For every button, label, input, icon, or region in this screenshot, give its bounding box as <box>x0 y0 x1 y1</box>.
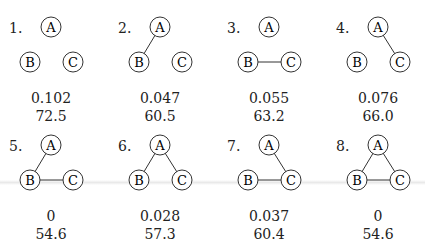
panel-value-2: 57.3 <box>109 226 211 240</box>
panel-value-1: 0 <box>0 208 102 224</box>
svg-text:B: B <box>25 173 35 188</box>
graph-panel-2: A B C 2. 0.047 60.5 <box>109 10 215 128</box>
node-c: C <box>390 52 410 72</box>
node-b: B <box>129 52 149 72</box>
node-a: A <box>150 17 170 37</box>
panel-value-2: 54.6 <box>327 226 425 240</box>
svg-text:C: C <box>395 173 405 188</box>
node-c: C <box>390 170 410 190</box>
svg-text:A: A <box>154 20 165 35</box>
graph-panel-7: A B C 7. 0.037 60.4 <box>218 128 324 240</box>
svg-text:C: C <box>395 55 405 70</box>
node-c: C <box>63 52 83 72</box>
node-a: A <box>41 135 61 155</box>
svg-text:C: C <box>68 55 78 70</box>
node-b: B <box>129 170 149 190</box>
panel-value-1: 0.076 <box>327 90 425 106</box>
svg-text:B: B <box>352 55 362 70</box>
panel-number: 6. <box>118 138 131 154</box>
graph-panel-4: A B C 4. 0.076 66.0 <box>327 10 425 128</box>
panel-number: 4. <box>336 20 349 36</box>
node-c: C <box>63 170 83 190</box>
panel-value-1: 0 <box>327 208 425 224</box>
graph-panel-6: A B C 6. 0.028 57.3 <box>109 128 215 240</box>
node-a: A <box>259 135 279 155</box>
panel-number: 5. <box>9 138 22 154</box>
svg-text:C: C <box>177 173 187 188</box>
node-b: B <box>20 170 40 190</box>
node-c: C <box>172 170 192 190</box>
panel-number: 7. <box>227 138 240 154</box>
node-b: B <box>347 52 367 72</box>
panel-value-1: 0.028 <box>109 208 211 224</box>
node-b: B <box>347 170 367 190</box>
node-a: A <box>41 17 61 37</box>
node-a: A <box>368 135 388 155</box>
svg-text:B: B <box>134 55 144 70</box>
svg-text:B: B <box>243 55 253 70</box>
svg-text:A: A <box>154 138 165 153</box>
graph-panel-1: A B C 1. 0.102 72.5 <box>0 10 106 128</box>
graph-panel-8: A B C 8. 0 54.6 <box>327 128 425 240</box>
svg-text:B: B <box>25 55 35 70</box>
panel-value-1: 0.047 <box>109 90 211 106</box>
node-a: A <box>150 135 170 155</box>
svg-text:C: C <box>286 55 296 70</box>
svg-text:C: C <box>286 173 296 188</box>
svg-text:A: A <box>372 138 383 153</box>
node-c: C <box>172 52 192 72</box>
graph-panel-5: A B C 5. 0 54.6 <box>0 128 106 240</box>
panel-number: 8. <box>336 138 349 154</box>
panel-value-2: 60.5 <box>109 108 211 124</box>
svg-text:B: B <box>134 173 144 188</box>
svg-text:B: B <box>243 173 253 188</box>
node-b: B <box>20 52 40 72</box>
svg-text:A: A <box>45 20 56 35</box>
panel-value-2: 54.6 <box>0 226 102 240</box>
panel-value-2: 60.4 <box>218 226 320 240</box>
node-a: A <box>368 17 388 37</box>
svg-text:C: C <box>68 173 78 188</box>
panel-value-2: 72.5 <box>0 108 102 124</box>
panel-number: 2. <box>118 20 131 36</box>
node-c: C <box>281 170 301 190</box>
svg-text:C: C <box>177 55 187 70</box>
panel-value-1: 0.102 <box>0 90 102 106</box>
svg-text:A: A <box>372 20 383 35</box>
panel-number: 1. <box>9 20 22 36</box>
node-b: B <box>238 170 258 190</box>
panel-value-2: 63.2 <box>218 108 320 124</box>
node-b: B <box>238 52 258 72</box>
panel-value-1: 0.037 <box>218 208 320 224</box>
node-c: C <box>281 52 301 72</box>
panel-value-2: 66.0 <box>327 108 425 124</box>
svg-text:A: A <box>263 20 274 35</box>
panel-value-1: 0.055 <box>218 90 320 106</box>
svg-text:A: A <box>45 138 56 153</box>
node-a: A <box>259 17 279 37</box>
graph-panel-3: A B C 3. 0.055 63.2 <box>218 10 324 128</box>
svg-text:B: B <box>352 173 362 188</box>
panel-number: 3. <box>227 20 240 36</box>
svg-text:A: A <box>263 138 274 153</box>
